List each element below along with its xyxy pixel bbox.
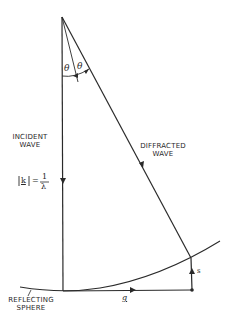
diagram-canvas xyxy=(0,0,233,326)
g-arrow-icon xyxy=(130,287,136,293)
reflecting-sphere-label: REFLECTING SPHERE xyxy=(3,296,59,312)
incident-arrow-icon xyxy=(60,178,66,184)
lambda-denominator: λ xyxy=(41,182,46,191)
diffracted-wave-label: DIFFRACTED WAVE xyxy=(137,142,189,158)
diffracted-wave-line xyxy=(62,17,191,258)
reflecting-sphere-arc xyxy=(20,241,220,291)
arc-arrow-right-icon xyxy=(84,69,89,74)
g-vector-label: g xyxy=(122,293,127,302)
lambda-numerator: 1 xyxy=(42,172,47,181)
s-arrow-icon xyxy=(189,268,195,274)
theta-right-label: θ xyxy=(77,61,82,71)
k-symbol: k xyxy=(21,176,26,185)
incident-wave-line xyxy=(62,17,63,291)
theta-left-label: θ xyxy=(64,63,69,73)
ewald-sphere-diagram: θ θ INCIDENT WAVE DIFFRACTED WAVE REFLEC… xyxy=(0,0,233,326)
incident-wave-label: INCIDENT WAVE xyxy=(5,133,55,149)
s-vector-label: s xyxy=(197,267,201,275)
equals-sign: = xyxy=(32,176,39,185)
